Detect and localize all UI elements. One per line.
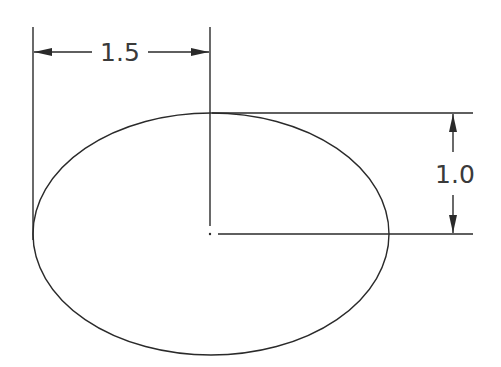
ellipse-dimension-drawing: 1.5 1.0 — [0, 0, 501, 367]
horizontal-dimension: 1.5 — [34, 38, 209, 67]
vertical-dimension-label: 1.0 — [435, 160, 475, 189]
horizontal-dimension-label: 1.5 — [100, 38, 140, 67]
arrow-left-icon — [34, 48, 52, 56]
arrow-right-icon — [191, 48, 209, 56]
center-point — [209, 233, 211, 235]
vertical-dimension: 1.0 — [435, 114, 475, 233]
arrow-down-icon — [449, 215, 457, 233]
arrow-up-icon — [449, 114, 457, 132]
